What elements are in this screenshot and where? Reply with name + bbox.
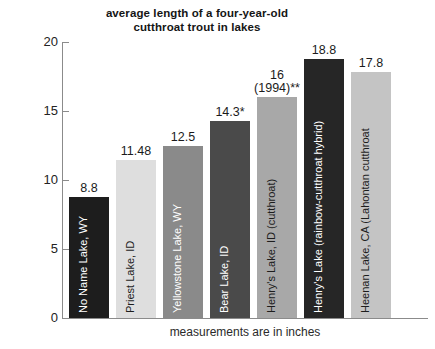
bar-label-clip: Bear Lake, ID (210, 121, 250, 318)
bar[interactable]: Heenan Lake, CA (Lahontan cutthroat (351, 72, 391, 318)
bar-label-clip: Heenan Lake, CA (Lahontan cutthroat (351, 72, 391, 318)
bar-label-clip: Yellowstone Lake, WY (163, 146, 203, 319)
bar-category-label: Bear Lake, ID (218, 246, 230, 313)
y-tick-label: 20 (24, 35, 58, 48)
bar[interactable]: Yellowstone Lake, WY (163, 146, 203, 319)
bar-value-line: 18.8 (290, 44, 358, 57)
bar[interactable]: No Name Lake, WY (69, 197, 109, 318)
bar-value-line: 14.3* (196, 106, 264, 119)
bar-value-label: 12.5 (149, 131, 217, 144)
bar-group[interactable]: Priest Lake, ID11.48 (116, 160, 156, 318)
bar-chart: average length of a four-year-old cutthr… (0, 0, 435, 349)
y-tick-label-text: 0 (30, 311, 58, 324)
bar-group[interactable]: Henry's Lake, ID (cutthroat)16(1994)** (257, 97, 297, 318)
bar-group[interactable]: Henry's Lake (rainbow-cutthroat hybrid)1… (304, 59, 344, 318)
bar-group[interactable]: No Name Lake, WY8.8 (69, 197, 109, 318)
bar-label-clip: No Name Lake, WY (69, 197, 109, 318)
bar-group[interactable]: Yellowstone Lake, WY12.5 (163, 146, 203, 319)
plot-area: No Name Lake, WY8.8Priest Lake, ID11.48Y… (62, 40, 428, 319)
chart-title: average length of a four-year-old cutthr… (72, 6, 322, 34)
bar[interactable]: Henry's Lake, ID (cutthroat) (257, 97, 297, 318)
bar-group[interactable]: Bear Lake, ID14.3* (210, 121, 250, 318)
bar-value-label: 17.8 (337, 57, 405, 70)
bar-category-label: No Name Lake, WY (77, 216, 89, 313)
y-tick-label: 5 (24, 242, 58, 255)
bar-value-label: 16(1994)** (243, 69, 311, 95)
y-tick-label-text: 15 (30, 104, 58, 117)
bar-value-line: 17.8 (337, 57, 405, 70)
y-tick-label-text: 5 (30, 242, 58, 255)
bar-value-label: 18.8 (290, 44, 358, 57)
bar-category-label: Henry's Lake (rainbow-cutthroat hybrid) (312, 121, 324, 313)
bar[interactable]: Bear Lake, ID (210, 121, 250, 318)
chart-title-line-1: average length of a four-year-old (72, 6, 322, 20)
bar-category-label: Heenan Lake, CA (Lahontan cutthroat (359, 128, 371, 313)
bar-label-clip: Henry's Lake, ID (cutthroat) (257, 97, 297, 318)
bar-category-label: Priest Lake, ID (124, 241, 136, 313)
bar-category-label: Yellowstone Lake, WY (171, 204, 183, 313)
bar-label-clip: Henry's Lake (rainbow-cutthroat hybrid) (304, 59, 344, 318)
bar-value-line: 11.48 (102, 145, 170, 158)
bar-value-label: 8.8 (55, 182, 123, 195)
bar-group[interactable]: Heenan Lake, CA (Lahontan cutthroat17.8 (351, 72, 391, 318)
y-tick-label: 15 (24, 104, 58, 117)
bar-value-label: 11.48 (102, 145, 170, 158)
bar-category-label: Henry's Lake, ID (cutthroat) (265, 179, 277, 313)
bar-value-line: 12.5 (149, 131, 217, 144)
bar-value-line: 8.8 (55, 182, 123, 195)
bar[interactable]: Henry's Lake (rainbow-cutthroat hybrid) (304, 59, 344, 318)
y-tick-label: 0 (24, 311, 58, 324)
bar[interactable]: Priest Lake, ID (116, 160, 156, 318)
bar-value-label: 14.3* (196, 106, 264, 119)
bar-label-clip: Priest Lake, ID (116, 160, 156, 318)
x-axis-caption: measurements are in inches (62, 325, 428, 339)
y-tick-label-text: 20 (30, 35, 58, 48)
chart-title-line-2: cutthroat trout in lakes (72, 20, 322, 34)
y-tick-label: 10 (24, 173, 58, 186)
y-tick-label-text: 10 (30, 173, 58, 186)
bar-value-line: (1994)** (243, 82, 311, 95)
